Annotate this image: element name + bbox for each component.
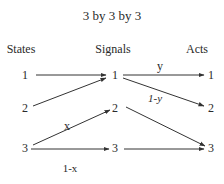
state-node-2: 2 <box>22 101 28 115</box>
signal-node-2: 2 <box>112 101 118 115</box>
edge-label-1-minus-x: 1-x <box>63 162 78 174</box>
state-node-3: 3 <box>22 141 28 155</box>
column-header-signals: Signals <box>95 42 131 56</box>
column-header-states: States <box>7 42 36 56</box>
state-node-1: 1 <box>22 68 28 82</box>
edge-signal2-act3 <box>126 107 205 146</box>
edge-label-y: y <box>157 59 163 73</box>
edge-state3-signal2 <box>33 110 110 145</box>
act-node-2: 2 <box>208 101 214 115</box>
column-header-acts: Acts <box>186 42 208 56</box>
act-node-1: 1 <box>208 68 214 82</box>
act-node-3: 3 <box>208 141 214 155</box>
signal-node-3: 3 <box>112 141 118 155</box>
edge-state2-signal1 <box>33 78 106 106</box>
signaling-game-diagram: 3 by 3 by 3 States Signals Acts 1 2 3 1 … <box>0 0 224 184</box>
signal-node-1: 1 <box>112 68 118 82</box>
edge-label-x: x <box>64 119 70 133</box>
edge-label-1-minus-y: 1-y <box>148 92 162 104</box>
diagram-title: 3 by 3 by 3 <box>83 8 142 23</box>
edge-signal1-act2 <box>123 78 204 106</box>
